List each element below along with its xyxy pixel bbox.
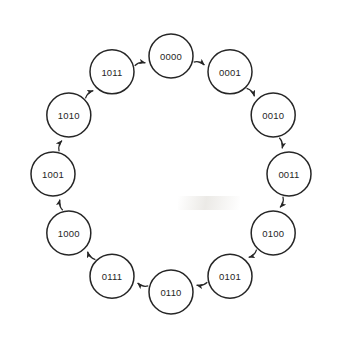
transition-arrow xyxy=(194,62,205,65)
transition-arrow xyxy=(247,88,255,96)
state-label: 0100 xyxy=(262,228,284,239)
state-node[interactable]: 0001 xyxy=(208,50,252,94)
state-label: 1001 xyxy=(42,169,64,180)
state-node[interactable]: 0010 xyxy=(251,93,295,137)
transition-arrow xyxy=(59,141,62,152)
state-label: 0000 xyxy=(160,51,182,62)
state-label: 1011 xyxy=(101,67,122,78)
state-node[interactable]: 0110 xyxy=(149,270,193,314)
state-label: 0001 xyxy=(219,67,241,78)
transition-arrow xyxy=(279,138,282,149)
state-label: 0101 xyxy=(219,271,241,282)
state-node[interactable]: 0011 xyxy=(267,152,311,196)
state-node[interactable]: 0101 xyxy=(208,254,252,298)
transitions-layer xyxy=(59,62,284,287)
states-layer: 0000000100100011010001010110011110001001… xyxy=(31,34,311,314)
transition-arrow xyxy=(88,252,96,260)
transition-arrow xyxy=(59,200,62,211)
diagram-canvas: 0000000100100011010001010110011110001001… xyxy=(0,0,339,347)
transition-arrow xyxy=(135,62,146,65)
state-label: 0011 xyxy=(278,169,299,180)
transition-arrow xyxy=(249,250,257,258)
state-node[interactable]: 1000 xyxy=(47,211,91,255)
state-node[interactable]: 0111 xyxy=(90,254,134,298)
state-node[interactable]: 1011 xyxy=(90,50,134,94)
state-node[interactable]: 1001 xyxy=(31,152,75,196)
state-label: 0111 xyxy=(102,271,123,282)
transition-arrow xyxy=(85,91,93,99)
state-node[interactable]: 0100 xyxy=(251,211,295,255)
transition-arrow xyxy=(197,282,208,285)
transition-arrow xyxy=(138,283,149,286)
state-node[interactable]: 1010 xyxy=(47,93,91,137)
state-label: 1000 xyxy=(58,228,80,239)
state-diagram: 0000000100100011010001010110011110001001… xyxy=(0,0,339,347)
state-label: 0110 xyxy=(160,287,181,298)
state-label: 0010 xyxy=(262,110,284,121)
state-label: 1010 xyxy=(58,110,80,121)
state-node[interactable]: 0000 xyxy=(149,34,193,78)
transition-arrow xyxy=(280,197,283,208)
